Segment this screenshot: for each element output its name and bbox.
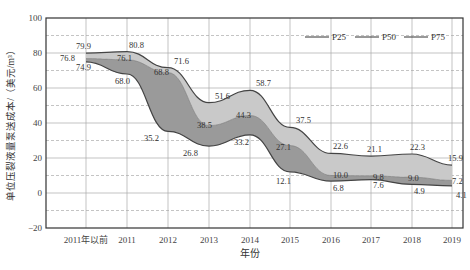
data-label-p75: 22.6	[333, 141, 348, 151]
legend-label-p75: P75	[431, 32, 446, 42]
data-label-p50: 10.0	[333, 170, 348, 180]
y-tick-label: 0	[38, 188, 43, 198]
y-tick-label: 40	[33, 118, 43, 128]
data-label-p25: 4.1	[456, 190, 467, 200]
legend-label-p25: P25	[332, 32, 347, 42]
y-tick-label: 20	[33, 153, 43, 163]
legend-label-p50: P50	[382, 32, 397, 42]
legend: P25P50P75	[305, 32, 446, 42]
y-tick-label: 100	[29, 13, 43, 23]
data-label-p50: 7.2	[452, 176, 463, 186]
data-label-p50: 44.3	[236, 110, 251, 120]
data-label-p50: 9.0	[408, 173, 419, 183]
x-axis-ticks: 2011年以前201120122013201420152016201720182…	[64, 234, 462, 245]
data-label-p75: 79.9	[76, 41, 91, 51]
bands	[86, 52, 452, 186]
x-axis-label: 年份	[240, 247, 260, 259]
data-label-p75: 21.1	[367, 144, 382, 154]
data-label-p50: 76.8	[60, 53, 75, 63]
data-label-p25: 4.9	[414, 186, 425, 196]
data-label-p75: 51.6	[215, 91, 230, 101]
data-label-p75: 22.3	[410, 142, 425, 152]
data-label-p75: 80.8	[129, 40, 144, 50]
data-label-p75: 15.9	[448, 153, 463, 163]
data-label-p50: 68.8	[154, 67, 169, 77]
data-label-p50: 76.1	[117, 53, 132, 63]
data-label-p75: 58.7	[256, 78, 271, 88]
y-tick-label: 80	[33, 48, 43, 58]
x-tick-label: 2019	[443, 235, 462, 245]
data-label-p25: 6.8	[333, 183, 344, 193]
data-label-p50: 9.8	[373, 172, 384, 182]
x-tick-label: 2013	[200, 235, 219, 245]
data-label-p25: 35.2	[144, 133, 159, 143]
data-label-p25: 74.9	[76, 62, 91, 72]
data-label-p25: 68.0	[115, 76, 130, 86]
y-tick-label: 60	[33, 83, 43, 93]
x-tick-label: 2014	[241, 235, 260, 245]
y-tick-label: −20	[28, 223, 43, 233]
x-tick-label: 2012	[159, 235, 177, 245]
data-label-p25: 26.8	[183, 148, 198, 158]
data-label-p50: 27.1	[276, 142, 291, 152]
x-tick-label: 2016	[322, 235, 341, 245]
data-label-p50: 38.5	[197, 120, 212, 130]
data-label-p25: 33.2	[234, 137, 249, 147]
y-axis-ticks: −20020406080100	[28, 13, 43, 233]
x-tick-label: 2011	[118, 235, 136, 245]
x-tick-label: 2017	[362, 235, 381, 245]
y-axis-label: 单位压裂液量泵送成本/（美元/m³）	[5, 45, 16, 201]
x-tick-label: 2011年以前	[64, 234, 109, 245]
data-label-p25: 12.1	[276, 176, 291, 186]
chart: 74.968.035.226.833.212.16.87.64.94.176.8…	[0, 0, 470, 270]
x-tick-label: 2015	[281, 235, 300, 245]
data-label-p75: 71.6	[174, 56, 189, 66]
x-tick-label: 2018	[403, 235, 422, 245]
data-label-p75: 37.5	[296, 115, 311, 125]
